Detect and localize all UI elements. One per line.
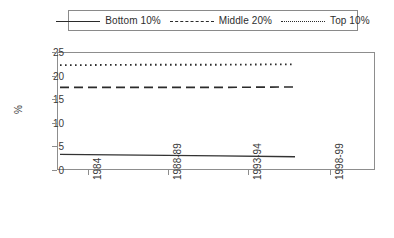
legend-label-middle-20: Middle 20% bbox=[219, 15, 272, 26]
legend-line-dashed-icon bbox=[170, 16, 214, 25]
legend-item-top-10: Top 10% bbox=[281, 15, 370, 26]
series-line-top-10 bbox=[60, 64, 295, 65]
x-tick-mark bbox=[88, 170, 89, 175]
y-tick-mark bbox=[52, 170, 57, 171]
series-line-bottom-10 bbox=[60, 154, 295, 156]
y-axis-title: % bbox=[13, 105, 24, 114]
x-tick-mark bbox=[168, 170, 169, 175]
legend-line-solid-icon bbox=[56, 16, 100, 25]
legend-item-middle-20: Middle 20% bbox=[170, 15, 272, 26]
legend-label-top-10: Top 10% bbox=[330, 15, 370, 26]
chart-legend: Bottom 10% Middle 20% Top 10% bbox=[68, 10, 358, 31]
series-layer bbox=[57, 52, 375, 170]
x-tick-mark bbox=[330, 170, 331, 175]
legend-item-bottom-10: Bottom 10% bbox=[56, 15, 160, 26]
chart-container: Bottom 10% Middle 20% Top 10% % 05101520… bbox=[0, 0, 394, 238]
x-tick-mark bbox=[248, 170, 249, 175]
legend-label-bottom-10: Bottom 10% bbox=[105, 15, 160, 26]
legend-line-dotted-icon bbox=[281, 16, 325, 25]
